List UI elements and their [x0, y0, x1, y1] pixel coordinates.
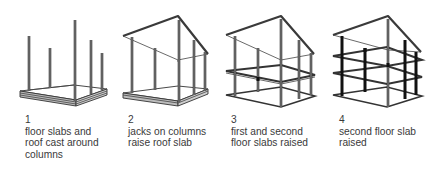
roof-slab — [226, 16, 314, 60]
caption-line: first and second — [231, 126, 308, 138]
panel-4-caption: 4 second floor slab raised — [339, 114, 416, 149]
first-floor-slab — [333, 66, 422, 84]
panel-2-drawing — [123, 16, 208, 106]
panel-number: 2 — [128, 114, 206, 126]
caption-line: jacks on columns — [128, 126, 206, 138]
lift-slab-construction-diagram: 1 floor slabs and roof cast around colum… — [0, 0, 439, 169]
caption-line: roof cast around — [25, 137, 99, 149]
ground-slab — [333, 87, 422, 107]
caption-line: floor slabs raised — [231, 137, 308, 149]
caption-line: raise roof slab — [128, 137, 206, 149]
second-floor-slab — [333, 47, 422, 66]
caption-line: floor slabs and — [25, 126, 99, 138]
ground-slab — [226, 87, 315, 107]
caption-line: second floor slab — [339, 126, 416, 138]
panel-2-caption: 2 jacks on columns raise roof slab — [128, 114, 206, 149]
jack — [364, 48, 367, 52]
panel-number: 4 — [339, 114, 416, 126]
panel-3-drawing — [226, 16, 315, 107]
panel-number: 1 — [25, 114, 99, 126]
panel-1-drawing — [20, 20, 107, 106]
panel-4-drawing — [333, 16, 422, 107]
stacked-slabs — [20, 85, 107, 106]
raised-floor-slabs — [226, 65, 315, 84]
jack — [387, 63, 390, 67]
caption-line: raised — [339, 137, 416, 149]
jack — [257, 77, 260, 81]
panel-number: 3 — [231, 114, 308, 126]
roof-slab — [333, 16, 421, 52]
caption-line: columns — [25, 149, 99, 161]
panel-3-caption: 3 first and second floor slabs raised — [231, 114, 308, 149]
panel-1-caption: 1 floor slabs and roof cast around colum… — [25, 114, 99, 160]
